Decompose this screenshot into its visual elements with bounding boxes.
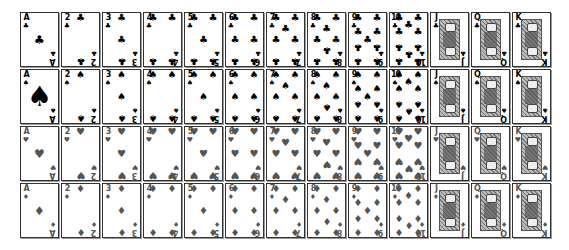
card-7-of-clubs[interactable]: 7♣7♣♣♣♣♣♣♣♣ — [266, 12, 305, 67]
card-a-of-diamonds[interactable]: A♦A♦♦ — [20, 183, 59, 238]
card-corner-index: K♠ — [541, 106, 549, 122]
clubs-icon: ♣ — [372, 27, 382, 37]
diamonds-icon: ♦ — [271, 184, 281, 194]
card-7-of-spades[interactable]: 7♠7♠♠♠♠♠♠♠♠ — [266, 69, 305, 124]
card-10-of-clubs[interactable]: 10♣10♣♣♣♣♣♣♣♣♣♣♣ — [389, 12, 428, 67]
rank-label: Q — [500, 228, 508, 236]
rank-label: A — [49, 57, 57, 65]
spades-icon: ♠ — [394, 70, 404, 80]
card-10-of-hearts[interactable]: 10♥10♥♥♥♥♥♥♥♥♥♥♥ — [389, 126, 428, 181]
card-3-of-diamonds[interactable]: 3♦3♦♦♦♦ — [102, 183, 141, 238]
card-q-of-spades[interactable]: Q♠Q♠ — [471, 69, 510, 124]
card-corner-index: 3♦ — [104, 185, 112, 201]
card-9-of-spades[interactable]: 9♠9♠♠♠♠♠♠♠♠♠♠ — [348, 69, 387, 124]
card-q-of-clubs[interactable]: Q♣Q♣ — [471, 12, 510, 67]
card-q-of-hearts[interactable]: Q♥Q♥ — [471, 126, 510, 181]
spades-icon: ♠ — [63, 79, 71, 87]
card-8-of-diamonds[interactable]: 8♦8♦♦♦♦♦♦♦♦♦ — [307, 183, 346, 238]
clubs-icon: ♣ — [208, 56, 218, 66]
card-4-of-spades[interactable]: 4♠4♠♠♠♠♠ — [143, 69, 182, 124]
card-2-of-spades[interactable]: 2♠2♠♠♠ — [61, 69, 100, 124]
hearts-icon: ♥ — [199, 149, 209, 159]
card-j-of-diamonds[interactable]: J♦J♦ — [430, 183, 469, 238]
card-7-of-diamonds[interactable]: 7♦7♦♦♦♦♦♦♦♦ — [266, 183, 305, 238]
diamonds-icon: ♦ — [290, 184, 300, 194]
card-8-of-clubs[interactable]: 8♣8♣♣♣♣♣♣♣♣♣ — [307, 12, 346, 67]
diamonds-icon: ♦ — [189, 227, 199, 237]
hearts-icon: ♥ — [290, 127, 300, 137]
rank-label: A — [22, 14, 30, 22]
hearts-icon: ♥ — [413, 127, 423, 137]
card-corner-index: J♣ — [459, 49, 467, 65]
rank-label: 2 — [90, 228, 98, 236]
card-9-of-diamonds[interactable]: 9♦9♦♦♦♦♦♦♦♦♦♦ — [348, 183, 387, 238]
spades-icon: ♠ — [331, 92, 341, 102]
hearts-icon: ♥ — [413, 156, 423, 166]
card-2-of-diamonds[interactable]: 2♦2♦♦♦ — [61, 183, 100, 238]
card-3-of-spades[interactable]: 3♠3♠♠♠♠ — [102, 69, 141, 124]
card-a-of-clubs[interactable]: A♣A♣♣ — [20, 12, 59, 67]
card-5-of-clubs[interactable]: 5♣5♣♣♣♣♣♣ — [184, 12, 223, 67]
card-10-of-spades[interactable]: 10♠10♠♠♠♠♠♠♠♠♠♠♠ — [389, 69, 428, 124]
clubs-icon: ♣ — [459, 49, 467, 57]
card-8-of-hearts[interactable]: 8♥8♥♥♥♥♥♥♥♥♥ — [307, 126, 346, 181]
card-j-of-spades[interactable]: J♠J♠ — [430, 69, 469, 124]
hearts-icon: ♥ — [372, 170, 382, 180]
diamonds-icon: ♦ — [404, 220, 414, 230]
diamonds-icon: ♦ — [208, 227, 218, 237]
card-6-of-clubs[interactable]: 6♣6♣♣♣♣♣♣♣ — [225, 12, 264, 67]
card-9-of-hearts[interactable]: 9♥9♥♥♥♥♥♥♥♥♥♥ — [348, 126, 387, 181]
rank-label: 3 — [131, 114, 139, 122]
card-k-of-hearts[interactable]: K♥K♥ — [512, 126, 551, 181]
pip-area: ♣♣♣♣♣♣ — [235, 18, 254, 61]
card-6-of-diamonds[interactable]: 6♦6♦♦♦♦♦♦♦ — [225, 183, 264, 238]
card-3-of-hearts[interactable]: 3♥3♥♥♥♥ — [102, 126, 141, 181]
court-portrait — [521, 190, 542, 231]
diamonds-icon: ♦ — [76, 184, 86, 194]
clubs-icon: ♣ — [227, 22, 235, 30]
card-corner-index: 2♥ — [63, 128, 71, 144]
rank-label: 3 — [131, 171, 139, 179]
card-a-of-hearts[interactable]: A♥A♥♥ — [20, 126, 59, 181]
card-8-of-spades[interactable]: 8♠8♠♠♠♠♠♠♠♠♠ — [307, 69, 346, 124]
card-q-of-diamonds[interactable]: Q♦Q♦ — [471, 183, 510, 238]
spades-icon: ♠ — [413, 70, 423, 80]
diamonds-icon: ♦ — [145, 193, 153, 201]
card-6-of-spades[interactable]: 6♠6♠♠♠♠♠♠♠ — [225, 69, 264, 124]
card-9-of-clubs[interactable]: 9♣9♣♣♣♣♣♣♣♣♣♣ — [348, 12, 387, 67]
card-4-of-hearts[interactable]: 4♥4♥♥♥♥♥ — [143, 126, 182, 181]
hearts-icon: ♥ — [541, 163, 549, 171]
spades-icon: ♠ — [271, 70, 281, 80]
card-k-of-clubs[interactable]: K♣K♣ — [512, 12, 551, 67]
clubs-icon: ♣ — [500, 49, 508, 57]
spades-icon: ♠ — [167, 70, 177, 80]
card-j-of-hearts[interactable]: J♥J♥ — [430, 126, 469, 181]
card-4-of-clubs[interactable]: 4♣4♣♣♣♣♣ — [143, 12, 182, 67]
card-7-of-hearts[interactable]: 7♥7♥♥♥♥♥♥♥♥ — [266, 126, 305, 181]
card-6-of-hearts[interactable]: 6♥6♥♥♥♥♥♥♥ — [225, 126, 264, 181]
card-2-of-hearts[interactable]: 2♥2♥♥♥ — [61, 126, 100, 181]
card-k-of-diamonds[interactable]: K♦K♦ — [512, 183, 551, 238]
card-j-of-clubs[interactable]: J♣J♣ — [430, 12, 469, 67]
card-k-of-spades[interactable]: K♠K♠ — [512, 69, 551, 124]
rank-label: 3 — [104, 71, 112, 79]
card-corner-index: 2♦ — [63, 185, 71, 201]
card-3-of-clubs[interactable]: 3♣3♣♣♣♣ — [102, 12, 141, 67]
spades-icon: ♠ — [90, 106, 98, 114]
rank-label: 3 — [131, 57, 139, 65]
rank-label: 2 — [90, 114, 98, 122]
card-5-of-diamonds[interactable]: 5♦5♦♦♦♦♦♦ — [184, 183, 223, 238]
clubs-icon: ♣ — [541, 49, 549, 57]
clubs-icon: ♣ — [372, 13, 382, 23]
card-a-of-spades[interactable]: A♠A♠♠ — [20, 69, 59, 124]
row-spades: A♠A♠♠2♠2♠♠♠3♠3♠♠♠♠4♠4♠♠♠♠♠5♠5♠♠♠♠♠♠6♠6♠♠… — [20, 69, 554, 126]
diamonds-icon: ♦ — [230, 227, 240, 237]
card-2-of-clubs[interactable]: 2♣2♣♣♣ — [61, 12, 100, 67]
clubs-icon: ♣ — [353, 27, 363, 37]
card-4-of-diamonds[interactable]: 4♦4♦♦♦♦♦ — [143, 183, 182, 238]
rank-label: K — [541, 171, 549, 179]
diamonds-icon: ♦ — [394, 198, 404, 208]
card-5-of-spades[interactable]: 5♠5♠♠♠♠♠♠ — [184, 69, 223, 124]
card-10-of-diamonds[interactable]: 10♦10♦♦♦♦♦♦♦♦♦♦♦ — [389, 183, 428, 238]
card-5-of-hearts[interactable]: 5♥5♥♥♥♥♥♥ — [184, 126, 223, 181]
